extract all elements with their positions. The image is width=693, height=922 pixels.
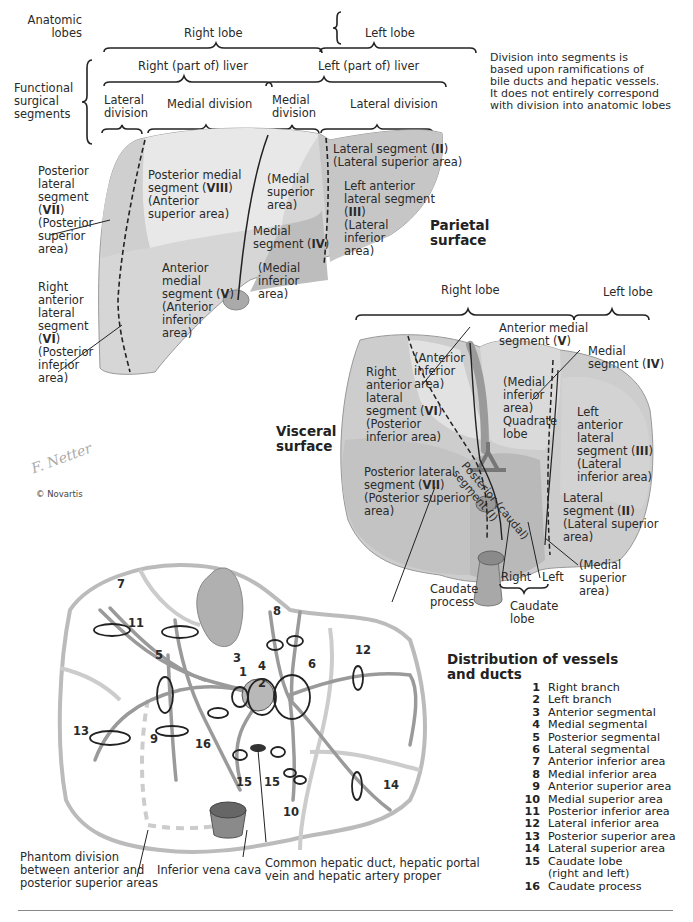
left-part-liver-label: Left (part of) liver bbox=[318, 60, 419, 73]
num-13: 13 bbox=[73, 725, 89, 738]
anatomic-lobes-brace bbox=[333, 12, 341, 44]
visceral-surface-title: Visceral surface bbox=[276, 424, 336, 454]
ivc-distribution bbox=[210, 802, 246, 838]
num-15-right: 15 bbox=[236, 776, 252, 789]
legend-item: 2Left branch bbox=[518, 694, 676, 706]
distribution-illustration bbox=[60, 565, 425, 877]
common-hepatic-label: Common hepatic duct, hepatic portal vein… bbox=[265, 857, 480, 883]
num-14: 14 bbox=[383, 779, 399, 792]
num-12: 12 bbox=[355, 644, 371, 657]
num-7: 7 bbox=[117, 578, 125, 591]
ivc-label: Inferior vena cava bbox=[157, 864, 261, 877]
medial-division-right: Medial division bbox=[167, 98, 252, 111]
parietal-seg-iii: Left anterior lateral segment (III) (Lat… bbox=[344, 180, 435, 258]
visceral-medial-segment: Medial segment (IV) bbox=[588, 345, 664, 371]
left-lobe-label: Left lobe bbox=[365, 27, 415, 40]
parietal-seg-v: Anterior medial segment (V) (Anterior in… bbox=[162, 262, 234, 340]
legend-item: 4Medial segmental bbox=[518, 719, 676, 731]
anatomic-lobes-label: Anatomic lobes bbox=[27, 14, 82, 40]
visceral-medial-superior: (Medial superior area) bbox=[579, 559, 626, 598]
phantom-division-label: Phantom division between anterior and po… bbox=[20, 851, 158, 890]
visceral-left-lobe: Left lobe bbox=[603, 286, 653, 299]
num-11: 11 bbox=[128, 617, 144, 630]
medial-division-left: Medial division bbox=[272, 94, 316, 120]
visceral-seg-ii: Lateral segment (II) (Lateral superior a… bbox=[563, 492, 659, 544]
legend-item: 7Anterior inferior area bbox=[518, 756, 676, 768]
right-lobe-label: Right lobe bbox=[184, 27, 243, 40]
visceral-seg-iii: Left anterior lateral segment (III) (Lat… bbox=[577, 406, 653, 484]
parietal-seg-viii: Posterior medial segment (VIII) (Anterio… bbox=[148, 169, 242, 221]
caudate-process-label: Caudate process bbox=[430, 583, 478, 609]
visceral-seg-vi: Right anterior lateral segment (VI) (Pos… bbox=[366, 366, 442, 444]
legend-item: 14Lateral superior area bbox=[518, 843, 676, 855]
legend-item: 15Caudate lobe (right and left) bbox=[518, 856, 676, 881]
distribution-title: Distribution of vessels and ducts bbox=[447, 652, 618, 682]
parietal-seg-vi: Right anterior lateral segment (VI) (Pos… bbox=[38, 281, 93, 385]
functional-segments-label: Functional surgical segments bbox=[14, 82, 84, 121]
num-15-left: 15 bbox=[264, 776, 280, 789]
parietal-surface-title: Parietal surface bbox=[430, 218, 489, 248]
num-1: 1 bbox=[239, 666, 247, 679]
ivc-visceral bbox=[474, 551, 504, 606]
num-9: 9 bbox=[150, 733, 158, 746]
segment-note: Division into segments is based upon ram… bbox=[490, 52, 671, 112]
right-part-liver-label: Right (part of) liver bbox=[138, 60, 248, 73]
copyright: © Novartis bbox=[36, 488, 83, 501]
num-3: 3 bbox=[233, 652, 241, 665]
lateral-division-left: Lateral division bbox=[350, 98, 438, 111]
num-4: 4 bbox=[258, 660, 266, 673]
num-6: 6 bbox=[308, 658, 316, 671]
parietal-seg-ii: Lateral segment (II) (Lateral superior a… bbox=[333, 143, 462, 169]
caudate-lobe-label: Caudate lobe bbox=[510, 600, 558, 626]
num-8: 8 bbox=[273, 605, 281, 618]
parietal-medial-inferior: (Medial inferior area) bbox=[258, 262, 300, 301]
visceral-quadrate-lobe: (Medial inferior area) Quadrate lobe bbox=[503, 376, 557, 441]
visceral-anterior-medial: Anterior medial segment (V) bbox=[499, 322, 588, 348]
bottom-divider bbox=[18, 910, 673, 911]
num-2: 2 bbox=[258, 677, 266, 690]
header-braces bbox=[82, 12, 476, 144]
parietal-seg-vii: Posterior lateral segment (VII) (Posteri… bbox=[38, 165, 93, 256]
num-10: 10 bbox=[283, 806, 299, 819]
parietal-medial-superior: (Medial superior area) bbox=[267, 173, 314, 212]
legend-item: 9Anterior superior area bbox=[518, 781, 676, 793]
legend-item: 12Lateral inferior area bbox=[518, 818, 676, 830]
num-5: 5 bbox=[155, 649, 163, 662]
legend-item: 16Caudate process bbox=[518, 881, 676, 893]
num-16: 16 bbox=[195, 738, 211, 751]
distribution-legend: 1Right branch 2Left branch 3Anterior seg… bbox=[518, 682, 676, 893]
visceral-right-lobe: Right lobe bbox=[441, 284, 500, 297]
caudate-left-label: Left bbox=[542, 571, 564, 584]
caudate-right-label: Right bbox=[501, 571, 531, 584]
parietal-seg-iv: Medial segment (IV) bbox=[253, 225, 329, 251]
lateral-division-right: Lateral division bbox=[104, 94, 148, 120]
